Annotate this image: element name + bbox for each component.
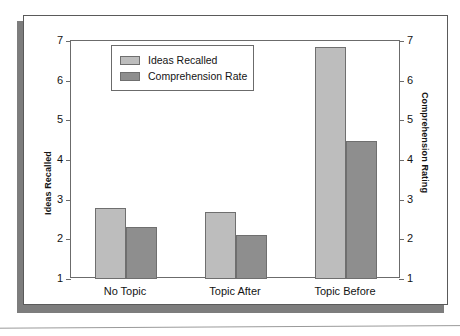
right-tick-mark-2 xyxy=(399,239,404,240)
bar-no-topic-ideas-recalled xyxy=(95,208,126,279)
legend-swatch-ideas-recalled xyxy=(120,56,140,65)
legend-label-comprehension-rate: Comprehension Rate xyxy=(148,70,247,82)
category-label-no-topic: No Topic xyxy=(104,285,147,297)
category-label-topic-after: Topic After xyxy=(209,285,260,297)
category-label-topic-before: Topic Before xyxy=(314,285,375,297)
right-tick-mark-1 xyxy=(399,279,404,280)
left-tick-label-1: 1 xyxy=(57,273,63,284)
right-tick-label-3: 3 xyxy=(407,194,413,205)
left-tick-mark-1 xyxy=(66,279,71,280)
right-tick-mark-7 xyxy=(399,41,404,42)
right-tick-label-2: 2 xyxy=(407,233,413,244)
left-tick-label-3: 3 xyxy=(57,194,63,205)
right-axis-title: Comprehension Rating xyxy=(420,92,430,193)
bar-topic-after-ideas-recalled xyxy=(205,212,236,279)
legend-item-comprehension-rate: Comprehension Rate xyxy=(120,68,245,84)
left-tick-label-5: 5 xyxy=(57,114,63,125)
bar-topic-before-comprehension-rate xyxy=(346,141,377,279)
left-tick-label-6: 6 xyxy=(57,75,63,86)
right-tick-mark-5 xyxy=(399,120,404,121)
bar-no-topic-comprehension-rate xyxy=(126,227,157,279)
right-tick-label-6: 6 xyxy=(407,75,413,86)
right-tick-label-4: 4 xyxy=(407,154,413,165)
bar-topic-after-comprehension-rate xyxy=(236,235,267,279)
left-tick-label-2: 2 xyxy=(57,233,63,244)
legend-swatch-comprehension-rate xyxy=(120,72,140,81)
bar-topic-before-ideas-recalled xyxy=(315,47,346,279)
legend-label-ideas-recalled: Ideas Recalled xyxy=(148,54,217,66)
right-tick-mark-3 xyxy=(399,200,404,201)
plot-area: 1234567 1234567 Ideas Recalled Comprehen… xyxy=(70,40,400,278)
right-tick-label-5: 5 xyxy=(407,114,413,125)
left-tick-label-7: 7 xyxy=(57,35,63,46)
right-tick-mark-4 xyxy=(399,160,404,161)
chart-legend: Ideas Recalled Comprehension Rate xyxy=(111,45,254,91)
legend-item-ideas-recalled: Ideas Recalled xyxy=(120,52,245,68)
right-tick-label-7: 7 xyxy=(407,35,413,46)
left-tick-label-4: 4 xyxy=(57,154,63,165)
right-tick-label-1: 1 xyxy=(407,273,413,284)
figure-root: Ideas Recalled Comprehension Rating 1234… xyxy=(0,0,460,336)
page-bottom-rule xyxy=(0,325,460,329)
right-tick-mark-6 xyxy=(399,81,404,82)
left-axis-title: Ideas Recalled xyxy=(43,151,53,215)
